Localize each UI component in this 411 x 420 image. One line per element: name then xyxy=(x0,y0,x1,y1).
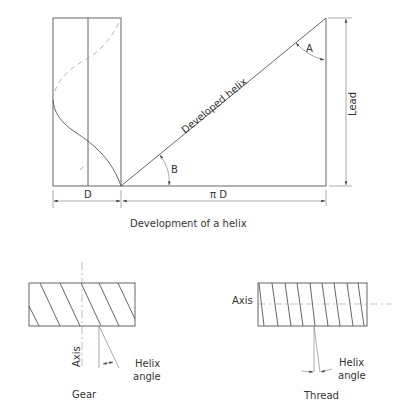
gear-view xyxy=(29,262,135,368)
angle-a-label: A xyxy=(306,43,313,54)
thread-axis-label: Axis xyxy=(232,295,253,306)
thread-caption: Thread xyxy=(303,390,339,401)
pi-d-label: π D xyxy=(210,189,227,200)
gear-helix-angle-arrow xyxy=(103,362,113,364)
lead-label: Lead xyxy=(347,92,358,116)
thread-view xyxy=(258,283,392,372)
helix-curve-front xyxy=(53,100,121,186)
thread-helix-angle-arrow-right xyxy=(321,369,332,372)
cylinder-side-view xyxy=(53,18,121,186)
angle-b-arc xyxy=(160,155,169,185)
thread-helix-angle-arrow-left xyxy=(301,371,313,372)
top-caption: Development of a helix xyxy=(130,218,247,229)
d-label: D xyxy=(84,189,92,200)
helix-diagram: Developed helix A B Lead D π D Developme… xyxy=(0,0,411,420)
angle-b-label: B xyxy=(171,164,178,175)
gear-angle-label: angle xyxy=(133,371,161,382)
gear-axis-label: Axis xyxy=(71,346,82,367)
thread-helix-label: Helix xyxy=(339,357,364,368)
thread-angle-label: angle xyxy=(338,370,366,381)
gear-caption: Gear xyxy=(72,389,97,400)
gear-helix-label: Helix xyxy=(135,358,160,369)
helix-curve-back xyxy=(53,18,121,100)
developed-helix-label: Developed helix xyxy=(179,76,249,136)
